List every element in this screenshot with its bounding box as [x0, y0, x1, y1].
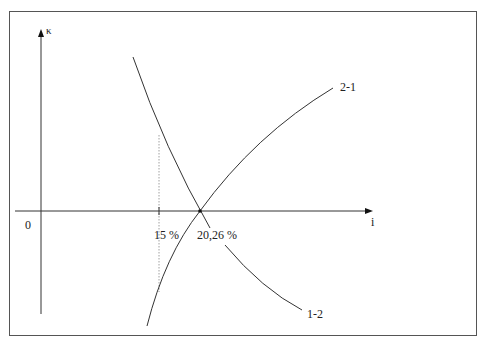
tick-label-2026: 20,26 % [197, 229, 237, 241]
x-axis-label: i [371, 216, 374, 228]
origin-label: 0 [25, 219, 31, 231]
curve-label-2-1: 2-1 [340, 81, 356, 93]
curve-1-2-lower [225, 245, 302, 310]
curve-2-1 [147, 88, 333, 326]
intersection-point [198, 209, 202, 213]
y-axis-arrow-icon [38, 29, 44, 37]
x-axis-arrow-icon [365, 208, 373, 214]
curve-1-2 [133, 57, 210, 228]
curve-label-1-2: 1-2 [307, 308, 323, 320]
frame-border [10, 12, 477, 336]
y-axis-label: κ [46, 25, 52, 36]
tick-label-15: 15 % [154, 229, 179, 241]
chart-canvas [0, 0, 483, 345]
